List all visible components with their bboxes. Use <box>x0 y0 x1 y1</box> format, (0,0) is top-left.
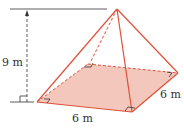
pyramid-diagram: 9 m 6 m 6 m <box>0 0 184 128</box>
right-angle-mark-height <box>20 96 27 102</box>
base-front-label: 6 m <box>72 112 93 125</box>
base-side-label: 6 m <box>160 88 181 101</box>
height-label: 9 m <box>2 56 23 69</box>
lateral-edge-right <box>117 9 178 73</box>
arrow-up-icon <box>25 10 29 16</box>
